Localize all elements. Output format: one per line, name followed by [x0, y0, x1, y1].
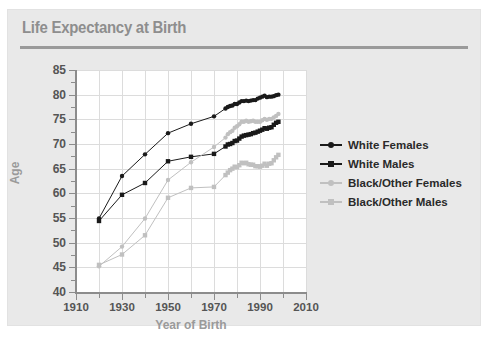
data-point-circle — [189, 122, 193, 126]
y-tick-label: 45 — [38, 260, 66, 274]
y-tick-label: 55 — [38, 211, 66, 225]
title-divider — [20, 46, 468, 49]
series-2 — [97, 120, 281, 224]
legend-label: Black/Other Females — [348, 177, 462, 189]
y-tick-minor — [71, 255, 76, 256]
data-point-square — [166, 196, 170, 200]
legend-item[interactable]: Black/Other Females — [320, 174, 480, 191]
y-tick-minor — [71, 132, 76, 133]
data-point-square — [143, 181, 147, 185]
legend-item[interactable]: Black/Other Males — [320, 193, 480, 210]
data-point-square — [97, 219, 101, 223]
y-tick-minor — [71, 280, 76, 281]
y-tick-label: 80 — [38, 88, 66, 102]
x-tick-minor — [145, 294, 146, 298]
legend-item[interactable]: White Males — [320, 155, 480, 172]
y-tick — [69, 218, 76, 219]
data-point-square — [212, 152, 216, 156]
data-point-square — [212, 185, 216, 189]
data-point-square — [276, 153, 280, 157]
y-tick — [69, 95, 76, 96]
y-tick-minor — [71, 107, 76, 108]
x-tick-minor — [237, 294, 238, 298]
data-point-circle — [120, 244, 124, 248]
x-tick-minor — [283, 294, 284, 298]
data-point-square — [189, 155, 193, 159]
x-tick-label: 1990 — [240, 301, 280, 313]
y-tick-label: 60 — [38, 186, 66, 200]
data-point-square — [166, 159, 170, 163]
y-tick — [69, 144, 76, 145]
y-tick-minor — [71, 82, 76, 83]
legend-label: White Females — [348, 139, 429, 151]
x-tick-label: 1970 — [194, 301, 234, 313]
data-point-circle — [143, 216, 147, 220]
x-tick-minor — [191, 294, 192, 298]
y-tick-label: 75 — [38, 112, 66, 126]
data-point-circle — [166, 178, 170, 182]
y-tick-minor — [71, 206, 76, 207]
x-tick — [76, 294, 77, 300]
data-point-square — [276, 120, 280, 124]
y-tick — [69, 119, 76, 120]
legend-circle-icon — [328, 180, 334, 186]
legend-square-icon — [328, 199, 334, 205]
data-point-square — [120, 252, 124, 256]
y-tick — [69, 193, 76, 194]
chart-plot-wrapper: Age Year of Birth 40455055606570758085 1… — [8, 54, 480, 324]
data-point-circle — [166, 131, 170, 135]
data-point-circle — [143, 152, 147, 156]
legend-marker-icon — [320, 196, 342, 208]
series-1 — [97, 92, 281, 220]
y-tick-label: 70 — [38, 137, 66, 151]
data-point-circle — [212, 145, 216, 149]
data-point-square — [120, 193, 124, 197]
data-point-circle — [120, 174, 124, 178]
x-tick — [306, 294, 307, 300]
x-tick-label: 1930 — [102, 301, 142, 313]
series-line — [99, 155, 278, 265]
legend-marker-icon — [320, 139, 342, 151]
y-tick-label: 40 — [38, 285, 66, 299]
x-tick-label: 1950 — [148, 301, 188, 313]
series-4 — [97, 153, 281, 267]
y-tick-label: 50 — [38, 236, 66, 250]
legend-item[interactable]: White Females — [320, 136, 480, 153]
y-tick-label: 65 — [38, 162, 66, 176]
chart-title: Life Expectancy at Birth — [22, 18, 186, 38]
legend-marker-icon — [320, 158, 342, 170]
chart-legend: White FemalesWhite MalesBlack/Other Fema… — [320, 136, 480, 212]
y-tick-label: 85 — [38, 63, 66, 77]
data-point-square — [189, 186, 193, 190]
y-tick-minor — [71, 156, 76, 157]
x-tick-minor — [99, 294, 100, 298]
y-tick-minor — [71, 230, 76, 231]
chart-card: Life Expectancy at Birth Age Year of Bir… — [8, 10, 480, 325]
y-tick — [69, 267, 76, 268]
x-tick — [260, 294, 261, 300]
series-line — [99, 95, 278, 219]
data-point-circle — [189, 160, 193, 164]
x-tick-label: 1910 — [56, 301, 96, 313]
data-point-circle — [276, 112, 280, 116]
y-tick — [69, 70, 76, 71]
legend-circle-icon — [328, 142, 334, 148]
legend-label: White Males — [348, 158, 414, 170]
series-line — [99, 114, 278, 266]
plot-area — [76, 70, 306, 292]
y-axis-title: Age — [8, 162, 22, 185]
x-tick — [168, 294, 169, 300]
gridline-vertical — [306, 70, 307, 292]
legend-square-icon — [328, 161, 334, 167]
y-tick — [69, 243, 76, 244]
series-layer — [76, 70, 306, 292]
legend-marker-icon — [320, 177, 342, 189]
legend-label: Black/Other Males — [348, 196, 448, 208]
x-tick — [214, 294, 215, 300]
series-line — [99, 122, 278, 221]
y-tick — [69, 292, 76, 293]
data-point-square — [97, 263, 101, 267]
x-tick-label: 2010 — [286, 301, 326, 313]
x-axis-title: Year of Birth — [76, 318, 306, 332]
x-tick — [122, 294, 123, 300]
